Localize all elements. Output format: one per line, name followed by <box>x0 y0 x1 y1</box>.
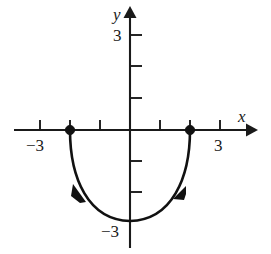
y-tick-label-3: 3 <box>113 27 122 44</box>
graph-figure: y x 3 −3 3 −3 <box>0 0 271 254</box>
y-tick-label-neg3: −3 <box>101 223 119 240</box>
x-tick-label-3: 3 <box>214 137 223 154</box>
y-axis-arrow-icon <box>124 6 137 18</box>
x-axis-label: x <box>238 108 246 125</box>
x-axis-arrow-icon <box>246 124 258 137</box>
endpoint-dot-left <box>65 125 74 134</box>
x-axis-group <box>14 120 258 137</box>
endpoint-dot-right <box>185 125 194 134</box>
y-axis-group <box>124 6 143 248</box>
plot-canvas <box>0 0 271 254</box>
y-axis-label: y <box>113 6 121 23</box>
x-tick-label-neg3: −3 <box>26 137 44 154</box>
